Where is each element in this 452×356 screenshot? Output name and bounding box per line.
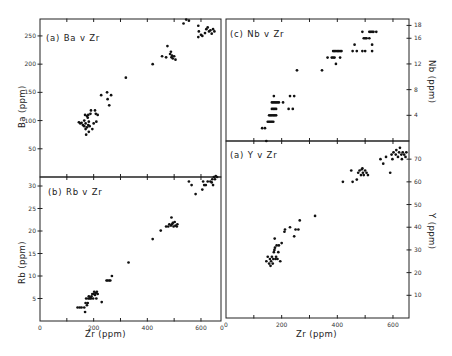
x-axis-label-left: Zr (ppm)	[85, 329, 126, 339]
svg-text:600: 600	[387, 321, 399, 328]
svg-text:5: 5	[32, 295, 36, 302]
svg-text:250: 250	[25, 32, 37, 39]
panel-label-c: (c) Nb v Zr	[230, 29, 284, 39]
svg-text:50: 50	[414, 201, 422, 208]
svg-text:70: 70	[414, 155, 422, 162]
svg-text:20: 20	[414, 269, 422, 276]
panel-label-a: (a) Ba v Zr	[46, 33, 100, 43]
svg-text:0: 0	[224, 321, 228, 328]
svg-text:16: 16	[414, 34, 422, 41]
svg-text:600: 600	[195, 324, 207, 331]
svg-text:40: 40	[414, 223, 422, 230]
svg-text:8: 8	[414, 86, 418, 93]
svg-text:50: 50	[28, 145, 36, 152]
panel-label-b: (b) Rb v Zr	[48, 187, 103, 197]
y-axis-label-y: Y (ppm)	[427, 212, 437, 249]
y-axis-label-ba: Ba (ppm)	[17, 85, 27, 128]
svg-text:10: 10	[28, 272, 36, 279]
svg-text:18: 18	[414, 21, 422, 28]
y-axis-label-rb: Rb (ppm)	[17, 241, 27, 284]
x-axis-label-right: Zr (ppm)	[296, 329, 337, 339]
svg-text:10: 10	[414, 291, 422, 298]
svg-text:0: 0	[38, 324, 42, 331]
svg-text:200: 200	[276, 321, 288, 328]
svg-text:15: 15	[28, 250, 36, 257]
svg-text:25: 25	[28, 205, 36, 212]
svg-text:12: 12	[414, 60, 422, 67]
svg-text:400: 400	[142, 324, 154, 331]
svg-text:4: 4	[414, 111, 418, 118]
svg-text:30: 30	[28, 182, 36, 189]
panel-label-d: (a) Y v Zr	[230, 150, 278, 160]
data-points	[76, 18, 407, 313]
svg-text:200: 200	[25, 60, 37, 67]
axes-frame	[40, 19, 409, 321]
svg-text:60: 60	[414, 178, 422, 185]
svg-text:30: 30	[414, 246, 422, 253]
svg-text:20: 20	[28, 227, 36, 234]
figure-canvas: 5010015020025051015202530020040060004812…	[0, 0, 452, 356]
svg-text:400: 400	[332, 321, 344, 328]
y-axis-label-nb: Nb (ppm)	[427, 60, 437, 103]
